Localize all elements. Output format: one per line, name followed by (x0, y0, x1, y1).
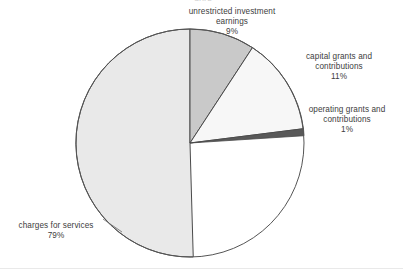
slice-label-text-line1: operating grants and (309, 105, 386, 114)
slice-percent-unrestricted-investment-earnings: 9% (166, 27, 298, 37)
slice-percent-capital-grants-and-contributions: 11% (283, 72, 395, 82)
slice-label-operating-grants-and-contributions: operating grants and contributions 1% (291, 105, 403, 136)
bottom-divider (0, 268, 403, 269)
slice-label-text-line2: contributions (323, 115, 371, 124)
slice-percent-operating-grants-and-contributions: 1% (291, 125, 403, 135)
slice-label-text-line1: charges for services (19, 221, 94, 230)
slice-percent-charges-for-services: 79% (2, 231, 110, 241)
slice-label-text-line2: earnings (216, 17, 248, 26)
slice-label-text-line1: unrestricted investment (189, 7, 276, 16)
slice-label-text-line1: capital grants and (306, 52, 372, 61)
slice-label-capital-grants-and-contributions: capital grants and contributions 11% (283, 52, 395, 83)
slice-label-unrestricted-investment-earnings: unrestricted investment earnings 9% (166, 7, 298, 38)
slice-label-text-line2: contributions (315, 62, 363, 71)
pie-chart: unre unrestricted investment earnings 9%… (0, 0, 403, 274)
slice-label-charges-for-services: charges for services 79% (2, 221, 110, 241)
